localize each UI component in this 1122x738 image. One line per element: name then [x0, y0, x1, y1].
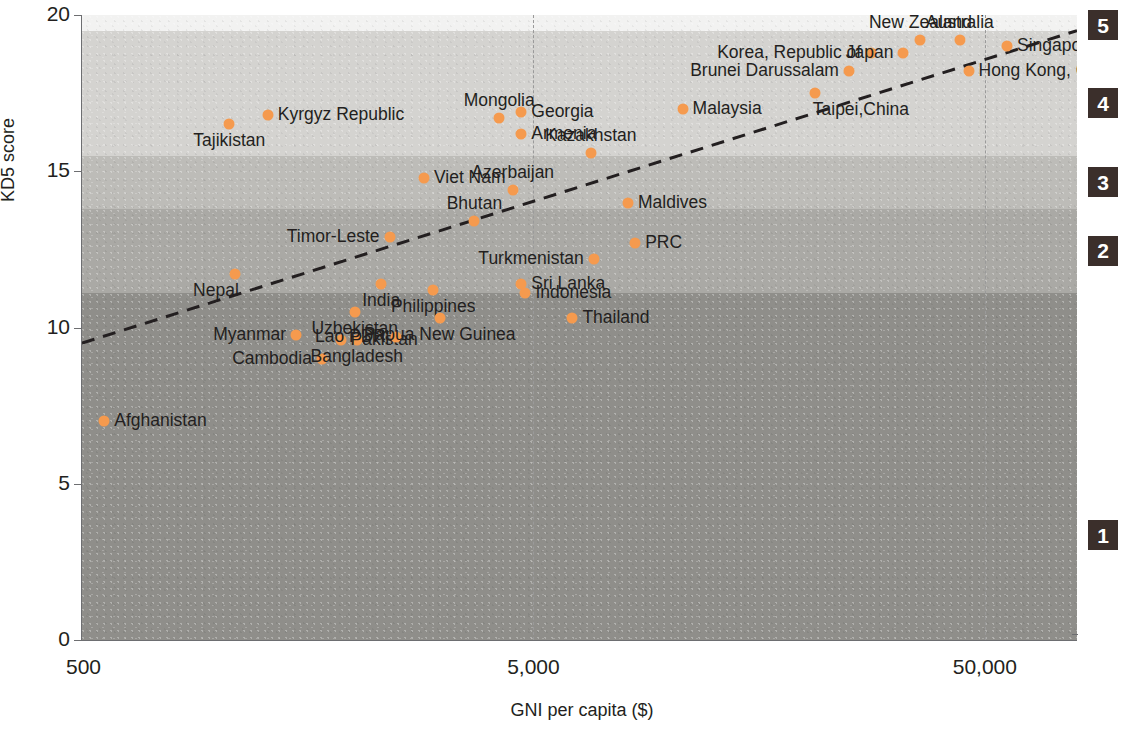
data-label-hong-kong-china: Hong Kong, China	[979, 63, 1078, 81]
chart-figure: 05101520 KD5 score AfghanistanTajikistan…	[0, 0, 1122, 738]
band-chip-2: 2	[1088, 236, 1118, 266]
data-point-kazakhstan[interactable]	[585, 147, 596, 158]
x-axis-title: GNI per capita ($)	[82, 700, 1082, 721]
data-label-indonesia: Indonesia	[535, 284, 611, 302]
data-label-maldives: Maldives	[638, 194, 707, 212]
data-point-uzbekistan[interactable]	[349, 306, 360, 317]
y-tick-15: 15	[26, 158, 70, 182]
y-tick-mark	[74, 15, 81, 16]
data-label-georgia: Georgia	[531, 103, 593, 121]
data-point-maldives[interactable]	[623, 197, 634, 208]
data-label-prc: PRC	[645, 234, 682, 252]
data-point-myanmar[interactable]	[291, 330, 302, 341]
data-point-singapore[interactable]	[1002, 41, 1013, 52]
data-label-japan: Japan	[846, 44, 894, 62]
data-label-kazakhstan: Kazakhstan	[545, 127, 636, 145]
band-texture	[82, 156, 1077, 209]
score-band-3	[82, 156, 1077, 209]
y-tick-mark	[74, 640, 81, 641]
data-point-malaysia[interactable]	[677, 103, 688, 114]
data-label-korea-republic-of: Korea, Republic of	[717, 44, 861, 62]
data-point-bhutan[interactable]	[469, 216, 480, 227]
data-point-philippines[interactable]	[428, 285, 439, 296]
data-point-hong-kong-china[interactable]	[963, 66, 974, 77]
data-label-singapore: Singapore	[1017, 38, 1077, 56]
data-label-kyrgyz-republic: Kyrgyz Republic	[278, 106, 404, 124]
data-label-philippines: Philippines	[391, 298, 476, 316]
x-axis-end-tick	[1072, 634, 1078, 635]
x-tick-5000: 5,000	[507, 655, 560, 679]
data-label-malaysia: Malaysia	[693, 100, 762, 118]
data-point-india[interactable]	[376, 278, 387, 289]
band-chip-1: 1	[1088, 520, 1118, 550]
band-texture	[82, 293, 1077, 640]
y-tick-0: 0	[26, 627, 70, 651]
y-tick-mark	[74, 484, 81, 485]
band-chip-4: 4	[1088, 88, 1118, 118]
y-tick-mark	[74, 328, 81, 329]
data-point-georgia[interactable]	[516, 106, 527, 117]
data-label-thailand: Thailand	[582, 309, 649, 327]
data-point-papua-new-guinea[interactable]	[434, 313, 445, 324]
band-chip-3: 3	[1088, 167, 1118, 197]
data-label-azerbaijan: Azerbaijan	[471, 164, 554, 182]
data-point-taipei-china[interactable]	[809, 88, 820, 99]
y-tick-mark	[74, 171, 81, 172]
data-point-indonesia[interactable]	[520, 288, 531, 299]
data-point-australia[interactable]	[954, 35, 965, 46]
data-label-taipei-china: Taipei,China	[813, 101, 909, 119]
data-point-prc[interactable]	[630, 238, 641, 249]
data-point-nepal[interactable]	[229, 269, 240, 280]
data-label-afghanistan: Afghanistan	[114, 413, 206, 431]
y-tick-20: 20	[26, 2, 70, 26]
data-label-tajikistan: Tajikistan	[193, 133, 265, 151]
data-point-afghanistan[interactable]	[99, 416, 110, 427]
y-axis-title: KD5 score	[0, 60, 19, 260]
data-label-nepal: Nepal	[193, 283, 239, 301]
data-label-bangladesh: Bangladesh	[310, 348, 402, 366]
plot-area: AfghanistanTajikistanKyrgyz RepublicNepa…	[82, 15, 1077, 640]
data-point-thailand[interactable]	[567, 313, 578, 324]
data-point-tajikistan[interactable]	[224, 119, 235, 130]
data-label-myanmar: Myanmar	[213, 327, 286, 345]
data-point-brunei-darussalam[interactable]	[843, 66, 854, 77]
data-point-armenia[interactable]	[516, 128, 527, 139]
x-axis-line	[81, 640, 1077, 641]
data-label-bhutan: Bhutan	[447, 196, 502, 214]
data-label-timor-leste: Timor-Leste	[287, 228, 380, 246]
data-point-new-zealand[interactable]	[915, 35, 926, 46]
y-tick-5: 5	[26, 471, 70, 495]
data-point-turkmenistan[interactable]	[588, 253, 599, 264]
data-point-japan[interactable]	[898, 47, 909, 58]
y-axis-line	[81, 15, 82, 640]
data-point-timor-leste[interactable]	[384, 231, 395, 242]
data-label-australia: Australia	[926, 15, 994, 32]
data-label-turkmenistan: Turkmenistan	[478, 250, 583, 268]
x-tick-500: 500	[66, 655, 101, 679]
data-label-brunei-darussalam: Brunei Darussalam	[690, 63, 839, 81]
data-point-azerbaijan[interactable]	[507, 185, 518, 196]
data-point-mongolia[interactable]	[494, 113, 505, 124]
score-band-1	[82, 293, 1077, 640]
data-point-viet-nam[interactable]	[418, 172, 429, 183]
x-tick-50000: 50,000	[953, 655, 1017, 679]
data-point-kyrgyz-republic[interactable]	[262, 110, 273, 121]
gridline-x-50,000	[985, 15, 986, 640]
data-label-papua-new-guinea: Papua New Guinea	[364, 326, 516, 344]
data-label-cambodia: Cambodia	[232, 350, 312, 368]
y-tick-10: 10	[26, 315, 70, 339]
band-chip-5: 5	[1088, 10, 1118, 40]
